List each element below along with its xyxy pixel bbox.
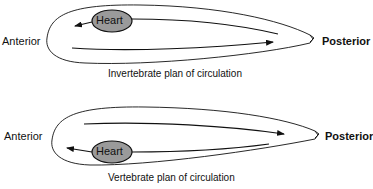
dorsal-vessel-arrow: [84, 123, 284, 134]
vertebrate-diagram: [52, 107, 319, 165]
posterior-label: Posterior: [322, 35, 370, 47]
heart-label: Heart: [96, 14, 123, 26]
ventral-vessel-arrow: [72, 42, 273, 50]
heart-label: Heart: [96, 145, 123, 157]
body-outline: [52, 107, 318, 165]
heart-outflow-arrow: [67, 148, 92, 152]
invertebrate-diagram: [47, 5, 314, 64]
body-outline: [47, 5, 313, 64]
anterior-label: Anterior: [4, 130, 43, 142]
diagram-caption: Invertebrate plan of circulation: [108, 68, 242, 79]
diagram-caption: Vertebrate plan of circulation: [108, 172, 235, 183]
dorsal-vessel-arrow: [132, 19, 278, 34]
posterior-label: Posterior: [325, 130, 373, 142]
heart-outflow-arrow: [75, 22, 92, 26]
anterior-label: Anterior: [2, 35, 41, 47]
